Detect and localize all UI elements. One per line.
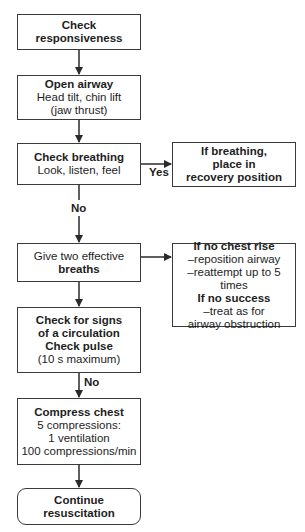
node-line: place in: [213, 158, 256, 171]
node-line: Give two effective: [34, 250, 125, 263]
node-check-breathing: Check breathing Look, listen, feel: [17, 143, 141, 185]
node-no-chest-rise: If no chest rise –reposition airway –rea…: [172, 243, 296, 327]
node-line: If breathing,: [201, 145, 267, 158]
node-line: –treat as for: [203, 305, 264, 318]
node-line: resuscitation: [43, 507, 115, 520]
node-line: 100 compressions/min: [21, 445, 136, 458]
node-line: Continue: [54, 494, 104, 507]
node-line: (jaw thrust): [51, 104, 108, 117]
node-line: Look, listen, feel: [37, 164, 120, 177]
node-title: Open airway: [45, 78, 113, 91]
node-title: Check for signs: [36, 314, 122, 327]
node-check-responsiveness: Check responsiveness: [17, 14, 141, 50]
node-line: 5 compressions:: [37, 419, 121, 432]
node-line: 1 ventilation: [48, 432, 109, 445]
node-continue-resuscitation: Continue resuscitation: [17, 488, 141, 525]
node-open-airway: Open airway Head tilt, chin lift (jaw th…: [17, 75, 141, 120]
node-line: (10 s maximum): [38, 353, 120, 366]
node-line: –reposition airway: [188, 253, 281, 266]
node-compress-chest: Compress chest 5 compressions: 1 ventila…: [17, 398, 141, 465]
edge-label-yes: Yes: [149, 166, 169, 178]
node-line: –reattempt up to 5 times: [173, 266, 295, 292]
node-title: If no chest rise: [193, 240, 274, 253]
node-title: Check pulse: [45, 340, 113, 353]
node-give-breaths: Give two effective breaths: [17, 243, 141, 282]
node-line: airway obstruction: [188, 318, 281, 331]
node-title: If no success: [198, 292, 271, 305]
node-line: recovery position: [186, 171, 282, 184]
node-title: Compress chest: [34, 406, 123, 419]
node-recovery-position: If breathing, place in recovery position: [172, 142, 296, 187]
node-line: Head tilt, chin lift: [37, 91, 121, 104]
node-title: of a circulation: [38, 327, 120, 340]
node-title: Check responsiveness: [18, 19, 140, 45]
edge-label-no-breathing: No: [71, 202, 86, 214]
node-title: Check breathing: [34, 151, 124, 164]
edge-label-no-pulse: No: [84, 376, 99, 388]
node-check-circulation: Check for signs of a circulation Check p…: [17, 307, 141, 373]
node-title: breaths: [58, 263, 100, 276]
